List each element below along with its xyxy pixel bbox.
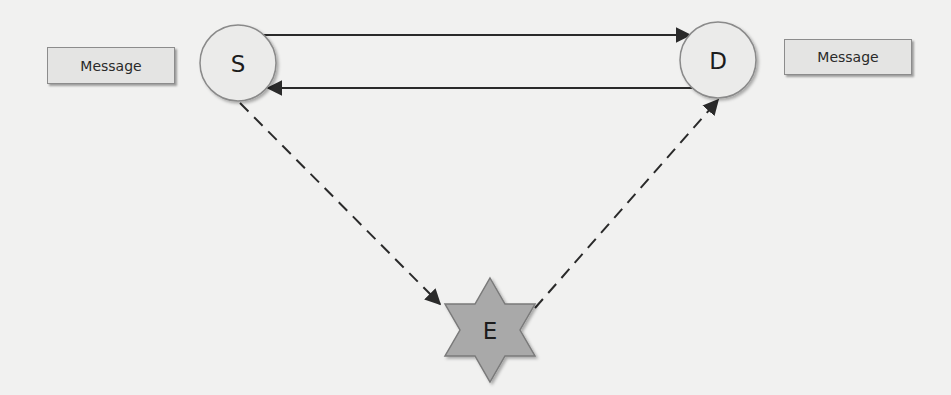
message-label-right: Message [817,49,878,65]
message-label-left: Message [80,58,141,74]
message-box-left: Message [47,47,175,84]
edge-e-to-d [535,100,718,308]
destination-node-circle [680,22,756,98]
edge-s-to-e [240,103,440,304]
source-node-circle [200,25,276,101]
eavesdropper-star-icon [445,278,535,382]
message-box-right: Message [784,39,912,75]
